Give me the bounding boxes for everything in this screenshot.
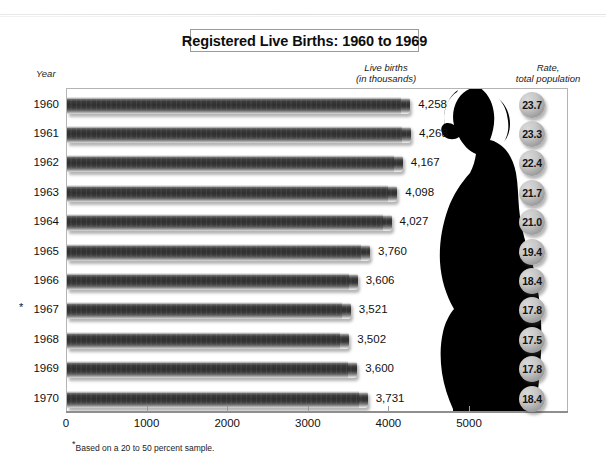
footnote: *Based on a 20 to 50 percent sample. — [72, 439, 214, 453]
year-asterisk-marker: * — [19, 301, 23, 313]
value-label-1965: 3,760 — [378, 245, 407, 257]
year-label-1961: 1961 — [3, 127, 59, 139]
bar-row — [67, 302, 351, 319]
rate-bubble-1970: 18.4 — [519, 386, 545, 412]
bar-1969 — [67, 361, 357, 378]
bar-end-cap — [388, 185, 397, 202]
bar-row — [67, 97, 410, 114]
bar-row — [67, 185, 397, 202]
x-axis-label-0: 0 — [36, 417, 96, 429]
x-axis-label-1000: 1000 — [117, 417, 177, 429]
rate-value: 18.4 — [522, 393, 542, 405]
bar-end-cap — [359, 391, 368, 408]
chart-canvas: Registered Live Births: 1960 to 1969 Yea… — [0, 0, 606, 468]
page-scan-rule — [0, 14, 606, 15]
rate-value: 23.7 — [522, 99, 542, 111]
bar-row — [67, 361, 357, 378]
value-label-1966: 3,606 — [366, 274, 395, 286]
rate-value: 17.8 — [522, 304, 542, 316]
bar-row — [67, 332, 349, 349]
bar-row — [67, 155, 403, 172]
page-title: Registered Live Births: 1960 to 1969 — [182, 33, 427, 49]
bar-end-cap — [349, 273, 358, 290]
value-label-1967: 3,521 — [359, 303, 388, 315]
bar-end-cap — [402, 126, 411, 143]
bar-row — [67, 126, 411, 143]
bar-1970 — [67, 391, 368, 408]
bar-1963 — [67, 185, 397, 202]
bar-1964 — [67, 214, 392, 231]
value-label-1968: 3,502 — [357, 333, 386, 345]
rate-value: 17.8 — [522, 363, 542, 375]
rate-value: 21.0 — [522, 216, 542, 228]
x-axis-label-3000: 3000 — [278, 417, 338, 429]
rate-bubble-1966: 18.4 — [519, 268, 545, 294]
bar-end-cap — [340, 332, 349, 349]
bar-row — [67, 214, 392, 231]
rate-value: 21.7 — [522, 187, 542, 199]
rate-bubble-1964: 21.0 — [519, 209, 545, 235]
rate-value: 18.4 — [522, 275, 542, 287]
rate-value: 22.4 — [522, 157, 542, 169]
bar-end-cap — [348, 361, 357, 378]
bar-1960 — [67, 97, 410, 114]
x-axis-tick — [469, 406, 470, 412]
rate-bubble-1960: 23.7 — [519, 92, 545, 118]
x-axis-label-5000: 5000 — [439, 417, 499, 429]
value-label-1962: 4,167 — [411, 156, 440, 168]
rate-bubble-1965: 19.4 — [519, 239, 545, 265]
bar-1962 — [67, 155, 403, 172]
year-label-1966: 1966 — [3, 274, 59, 286]
bar-1965 — [67, 244, 370, 261]
x-axis-tick — [388, 406, 389, 412]
page-scan-rule-secondary — [0, 16, 606, 17]
column-header-year: Year — [36, 68, 56, 79]
column-header-births: Live births (in thousands) — [338, 62, 434, 84]
bar-1966 — [67, 273, 358, 290]
year-label-1964: 1964 — [3, 215, 59, 227]
bar-end-cap — [342, 302, 351, 319]
year-label-1970: 1970 — [3, 392, 59, 404]
value-label-1969: 3,600 — [365, 362, 394, 374]
bar-end-cap — [394, 155, 403, 172]
year-label-1962: 1962 — [3, 156, 59, 168]
x-axis-tick — [227, 406, 228, 412]
year-label-1960: 1960 — [3, 98, 59, 110]
bar-1961 — [67, 126, 411, 143]
footnote-text: Based on a 20 to 50 percent sample. — [76, 443, 215, 453]
bar-end-cap — [361, 244, 370, 261]
rate-value: 23.3 — [522, 128, 542, 140]
rate-bubble-1968: 17.5 — [519, 327, 545, 353]
x-axis-label-2000: 2000 — [197, 417, 257, 429]
plot-frame — [66, 88, 568, 412]
year-label-1968: 1968 — [3, 333, 59, 345]
value-label-1970: 3,731 — [376, 392, 405, 404]
bar-end-cap — [401, 97, 410, 114]
year-label-1969: 1969 — [3, 362, 59, 374]
value-label-1961: 4,268 — [419, 127, 448, 139]
x-axis-line — [66, 411, 568, 413]
x-axis-label-4000: 4000 — [358, 417, 418, 429]
year-label-1965: 1965 — [3, 245, 59, 257]
chart-title-box: Registered Live Births: 1960 to 1969 — [190, 29, 419, 52]
x-axis-tick — [147, 406, 148, 412]
value-label-1960: 4,258 — [418, 98, 447, 110]
value-label-1963: 4,098 — [405, 186, 434, 198]
year-label-1967: 1967 — [3, 303, 59, 315]
rate-bubble-1969: 17.8 — [519, 356, 545, 382]
rate-bubble-1961: 23.3 — [519, 121, 545, 147]
x-axis-tick — [308, 406, 309, 412]
bar-row — [67, 244, 370, 261]
bar-row — [67, 391, 368, 408]
bar-1967 — [67, 302, 351, 319]
bar-1968 — [67, 332, 349, 349]
bar-row — [67, 273, 358, 290]
rate-bubble-1963: 21.7 — [519, 180, 545, 206]
value-label-1964: 4,027 — [400, 215, 429, 227]
bar-end-cap — [383, 214, 392, 231]
column-header-rate: Rate, total population — [500, 62, 596, 84]
rate-value: 19.4 — [522, 246, 542, 258]
year-label-1963: 1963 — [3, 186, 59, 198]
rate-value: 17.5 — [522, 334, 542, 346]
